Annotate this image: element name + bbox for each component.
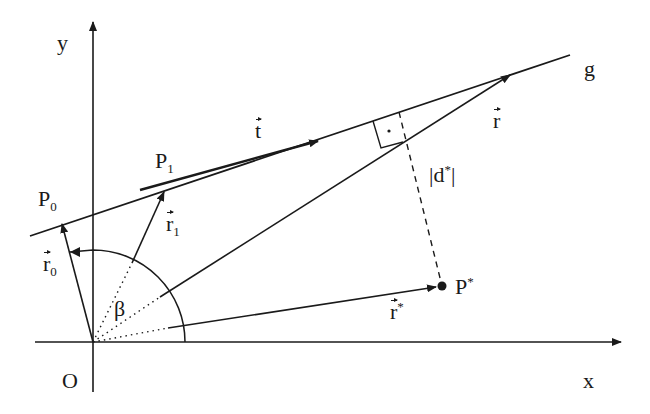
diagram: y x O g P0 P1 P* t r r0 r1 r* |d*| β bbox=[0, 0, 650, 414]
point-pstar bbox=[438, 282, 447, 291]
right-angle-dot bbox=[387, 129, 390, 132]
beta-arc bbox=[70, 250, 185, 342]
beta-label: β bbox=[114, 298, 125, 320]
p1-label: P1 bbox=[155, 150, 174, 175]
line-g-label: g bbox=[584, 58, 595, 80]
pstar-label: P* bbox=[455, 275, 474, 298]
diagram-canvas bbox=[0, 0, 650, 414]
r1-vector bbox=[132, 192, 164, 263]
r-vector-label: r bbox=[493, 110, 500, 132]
rstar-vector-dotted bbox=[93, 328, 168, 342]
r0-vector-label: r0 bbox=[43, 253, 57, 278]
p0-label: P0 bbox=[38, 188, 57, 213]
beta-arc-arrowhead bbox=[70, 247, 80, 257]
y-axis-label: y bbox=[57, 32, 68, 54]
r1-vector-dotted bbox=[93, 263, 132, 342]
origin-label: O bbox=[62, 370, 78, 392]
rstar-vector-label: r* bbox=[390, 300, 404, 323]
t-vector-label: t bbox=[255, 120, 261, 142]
r0-vector bbox=[62, 224, 93, 342]
r-vector bbox=[160, 75, 510, 297]
distance-label: |d*| bbox=[429, 163, 455, 186]
right-angle-marker bbox=[373, 121, 403, 148]
distance-d-line bbox=[399, 112, 441, 282]
r1-vector-label: r1 bbox=[166, 213, 180, 238]
x-axis-label: x bbox=[583, 370, 594, 392]
